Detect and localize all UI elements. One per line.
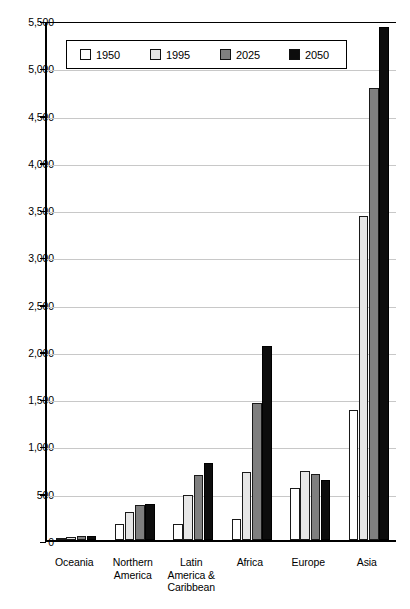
bar-latin-america-caribbean-2050: [204, 463, 214, 540]
bar-africa-2050: [262, 346, 272, 540]
bar-group: [281, 23, 340, 540]
bar-asia-1995: [359, 216, 369, 540]
x-axis-label-asia: Asia: [332, 556, 403, 569]
plot-area: [45, 22, 396, 542]
legend-label: 2025: [236, 49, 260, 61]
bar-latin-america-caribbean-2025: [194, 475, 204, 540]
bar-group: [164, 23, 223, 540]
legend-swatch-icon-2025: [220, 49, 231, 60]
bar-europe-2050: [321, 480, 331, 540]
bar-africa-2025: [252, 403, 262, 540]
bar-northern-america-1950: [115, 524, 125, 540]
legend-label: 2050: [305, 49, 329, 61]
legend-swatch-icon-1995: [150, 49, 161, 60]
bar-northern-america-2025: [135, 505, 145, 540]
legend-label: 1995: [166, 49, 190, 61]
bar-asia-1950: [349, 410, 359, 540]
x-axis-label-line: Asia: [332, 556, 403, 569]
legend-item-1995: 1995: [150, 41, 190, 68]
bar-asia-2025: [369, 88, 379, 540]
bar-oceania-2050: [87, 536, 97, 540]
bar-europe-1950: [290, 488, 300, 540]
bar-northern-america-2050: [145, 504, 155, 540]
legend-item-1950: 1950: [80, 41, 120, 68]
bar-latin-america-caribbean-1995: [183, 495, 193, 540]
bar-group: [106, 23, 165, 540]
legend-item-2025: 2025: [220, 41, 260, 68]
bar-africa-1950: [232, 519, 242, 540]
bar-group: [340, 23, 399, 540]
bar-asia-2050: [379, 27, 389, 540]
bar-oceania-1995: [66, 537, 76, 540]
x-axis-label-line: America &: [156, 569, 227, 582]
bar-group: [47, 23, 106, 540]
legend-label: 1950: [96, 49, 120, 61]
legend-swatch-icon-2050: [289, 49, 300, 60]
bar-oceania-1950: [56, 538, 66, 541]
chart-legend: 1950199520252050: [66, 40, 347, 69]
bar-europe-2025: [311, 474, 321, 540]
legend-item-2050: 2050: [289, 41, 329, 68]
bar-latin-america-caribbean-1950: [173, 524, 183, 540]
bar-africa-1995: [242, 472, 252, 540]
x-axis-label-line: Caribbean: [156, 581, 227, 594]
bar-group: [223, 23, 282, 540]
bar-europe-1995: [300, 471, 310, 540]
bar-northern-america-1995: [125, 512, 135, 540]
population-bar-chart: 05001,0001,5002,0002,5003,0003,5004,0004…: [0, 0, 410, 609]
bar-oceania-2025: [77, 536, 87, 540]
legend-swatch-icon-1950: [80, 49, 91, 60]
